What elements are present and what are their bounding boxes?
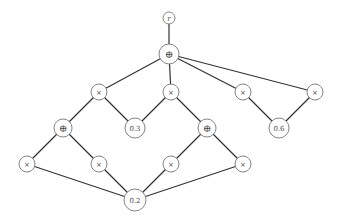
node-label: ×: [96, 161, 102, 169]
node-label: ×: [24, 161, 30, 169]
circuit-diagram: r⊕××××⊕0.3⊕0.6××××0.2: [0, 0, 340, 224]
product-node-p5: ×: [19, 156, 35, 172]
edge-p5-l02: [27, 164, 135, 200]
product-node-p2: ×: [163, 84, 179, 100]
product-node-p4: ×: [307, 84, 323, 100]
node-label: ×: [312, 89, 318, 97]
node-label: ×: [240, 89, 246, 97]
edge-s0-p3: [169, 54, 243, 92]
node-label: 0.3: [129, 125, 140, 133]
product-node-p1: ×: [91, 84, 107, 100]
sum-node-s1: ⊕: [54, 119, 72, 137]
node-label: 0.2: [129, 197, 140, 205]
sum-node-s0: ⊕: [159, 44, 179, 64]
leaf-node-l03: 0.3: [125, 118, 145, 138]
node-label: ×: [168, 89, 174, 97]
node-label: ⊕: [165, 49, 173, 60]
leaf-node-l02: 0.2: [124, 189, 146, 211]
edge-p8-l02: [135, 164, 243, 200]
sum-node-s2: ⊕: [198, 119, 216, 137]
node-label: ×: [96, 89, 102, 97]
node-label: ⊕: [59, 123, 67, 134]
node-label: ×: [240, 161, 246, 169]
node-label: ⊕: [203, 123, 211, 134]
edge-s0-p1: [99, 54, 169, 92]
product-node-p7: ×: [163, 156, 179, 172]
nodes-layer: r⊕××××⊕0.3⊕0.6××××0.2: [19, 12, 323, 211]
leaf-node-l06: 0.6: [269, 118, 289, 138]
product-node-p8: ×: [235, 156, 251, 172]
node-label: ×: [168, 161, 174, 169]
product-node-p6: ×: [91, 156, 107, 172]
variable-node-r: r: [163, 12, 175, 24]
node-label: 0.6: [273, 125, 285, 133]
product-node-p3: ×: [235, 84, 251, 100]
